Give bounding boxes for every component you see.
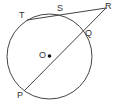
secant-PR <box>24 8 106 91</box>
label-O: O <box>39 51 46 60</box>
label-P: P <box>17 91 23 100</box>
label-Q: Q <box>85 29 92 38</box>
center-dot <box>48 54 52 58</box>
label-S: S <box>57 4 63 13</box>
label-T: T <box>19 11 25 20</box>
secant-TR <box>27 8 106 20</box>
label-R: R <box>105 2 112 11</box>
